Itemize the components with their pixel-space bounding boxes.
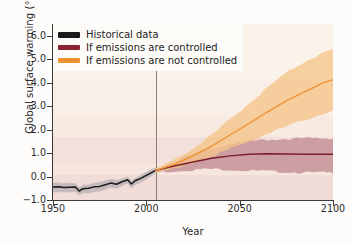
y-tick-mark xyxy=(47,200,52,201)
y-tick-mark xyxy=(47,177,52,178)
legend-item: Historical data xyxy=(58,28,237,41)
legend-label: Historical data xyxy=(86,30,159,40)
y-tick-label: 4.0 xyxy=(12,78,46,88)
y-tick-label: 1.0 xyxy=(12,148,46,158)
x-tick-mark xyxy=(333,201,334,206)
y-tick-label: 3.0 xyxy=(12,101,46,111)
x-tick-mark xyxy=(146,201,147,206)
legend-item: If emissions are controlled xyxy=(58,41,237,54)
y-tick-mark xyxy=(47,83,52,84)
legend-label: If emissions are not controlled xyxy=(86,56,237,66)
legend-swatch xyxy=(58,32,80,38)
x-tick-mark xyxy=(53,201,54,206)
x-axis-label: Year xyxy=(53,226,333,237)
uncertainty-band-0 xyxy=(53,167,156,195)
legend-swatch xyxy=(58,58,80,63)
y-tick-label: 0.0 xyxy=(12,172,46,182)
chart-legend: Historical dataIf emissions are controll… xyxy=(53,24,243,71)
y-tick-mark xyxy=(47,130,52,131)
legend-item: If emissions are not controlled xyxy=(58,54,237,67)
x-axis-line xyxy=(52,200,334,201)
y-tick-label: 6.0 xyxy=(12,31,46,41)
y-tick-mark xyxy=(47,153,52,154)
y-tick-mark xyxy=(47,59,52,60)
y-tick-mark xyxy=(47,106,52,107)
legend-swatch xyxy=(58,45,80,50)
legend-label: If emissions are controlled xyxy=(86,43,218,53)
y-tick-mark xyxy=(47,36,52,37)
y-tick-label: 2.0 xyxy=(12,125,46,135)
x-tick-label: 2100 xyxy=(303,203,352,214)
y-tick-label: 5.0 xyxy=(12,54,46,64)
climate-projection-chart: Global surface warming (°C) −1.00.01.02.… xyxy=(0,0,352,245)
x-tick-mark xyxy=(240,201,241,206)
